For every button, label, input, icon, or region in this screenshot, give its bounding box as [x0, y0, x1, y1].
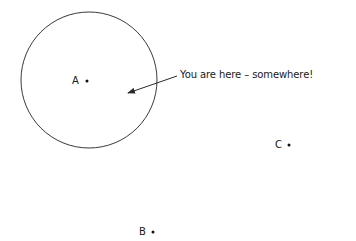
point-a-dot [86, 80, 89, 83]
point-c-label: C [275, 139, 282, 151]
point-a-label: A [72, 75, 79, 87]
annotation-text: You are here – somewhere! [180, 69, 313, 81]
diagram-canvas [0, 0, 356, 241]
point-b-dot [152, 231, 155, 234]
pointer-arrow [128, 76, 177, 93]
region-circle [21, 12, 157, 148]
point-c-dot [288, 144, 291, 147]
point-b-label: B [139, 226, 146, 238]
